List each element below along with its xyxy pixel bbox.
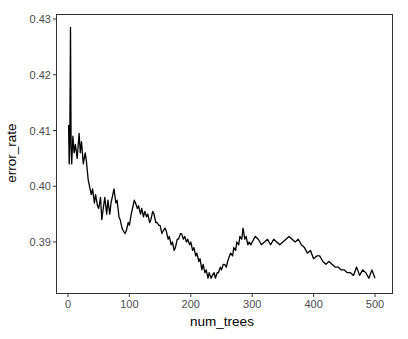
x-tick-label: 500 [366, 298, 384, 310]
y-tick-label: 0.42 [30, 69, 51, 81]
x-tick-label: 100 [120, 298, 138, 310]
y-tick-label: 0.43 [30, 13, 51, 25]
y-tick-label: 0.39 [30, 236, 51, 248]
x-tick-label: 300 [243, 298, 261, 310]
x-tick-label: 400 [304, 298, 322, 310]
x-tick-label: 200 [182, 298, 200, 310]
x-tick-label: 0 [65, 298, 71, 310]
y-tick-label: 0.40 [30, 180, 51, 192]
x-axis-title: num_trees [190, 314, 254, 329]
y-axis-title: error_rate [4, 123, 19, 182]
y-tick-label: 0.41 [30, 125, 51, 137]
chart-background [0, 0, 408, 339]
line-chart: 0100200300400500 0.390.400.410.420.43 nu… [0, 0, 408, 339]
